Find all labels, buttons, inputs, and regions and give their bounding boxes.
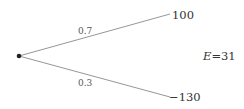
expected-value-number: 31 [221, 49, 236, 63]
expected-value-label: E=31 [202, 49, 236, 63]
branch-line-upper [19, 14, 170, 56]
outcome-label-lower: −130 [169, 90, 201, 104]
branch-upper: 0.7 100 [19, 8, 194, 56]
chance-node-dot [17, 54, 22, 59]
branch-lower: 0.3 −130 [19, 56, 201, 104]
expected-value-equals: = [211, 49, 221, 63]
branch-line-lower [19, 56, 170, 97]
probability-label-upper: 0.7 [78, 26, 93, 36]
probability-label-lower: 0.3 [78, 78, 93, 88]
probability-tree-diagram: 0.7 100 0.3 −130 E=31 [0, 0, 244, 109]
outcome-label-upper: 100 [172, 8, 194, 22]
